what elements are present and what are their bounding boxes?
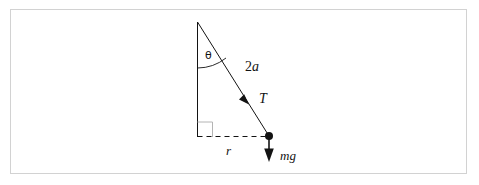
right-angle-marker-icon	[198, 122, 213, 137]
string-length-label: 2a	[245, 60, 259, 74]
string-length-number: 2	[245, 59, 252, 74]
figure-root: θ 2a T r mg	[0, 0, 479, 185]
diagram-canvas	[0, 0, 479, 185]
angle-label-theta: θ	[205, 50, 212, 61]
weight-label: mg	[280, 149, 296, 162]
string-line	[198, 22, 270, 136]
weight-arrowhead-icon	[264, 149, 274, 163]
tension-arrowhead-icon	[239, 94, 249, 104]
radius-label: r	[226, 144, 231, 157]
string-length-symbol: a	[252, 59, 259, 74]
tension-label: T	[259, 92, 267, 106]
